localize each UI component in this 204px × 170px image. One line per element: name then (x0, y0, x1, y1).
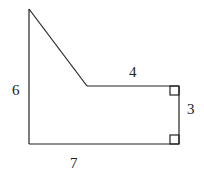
geometry-diagram: 6 4 3 7 (0, 0, 204, 170)
label-top: 4 (129, 64, 137, 80)
right-angle-marker-bottom (170, 135, 179, 144)
label-bottom: 7 (70, 155, 78, 170)
label-right: 3 (187, 101, 195, 117)
slanted-side (29, 9, 87, 86)
right-angle-marker-top (170, 86, 179, 95)
label-left: 6 (12, 82, 20, 98)
